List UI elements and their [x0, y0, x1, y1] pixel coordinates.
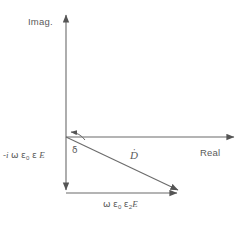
real-component-epsilon-two: ε: [124, 199, 129, 209]
real-component-omega: ω: [103, 199, 111, 209]
loss-angle-label: δ: [72, 146, 78, 155]
phasor-diagram: Imag. Real -i ω ε0 ε E ω ε0 ε2E ·D δ: [0, 0, 246, 226]
real-component-field: E: [132, 199, 138, 209]
overdot-accent: ·: [133, 146, 136, 155]
imaginary-axis-label: Imag.: [28, 17, 53, 27]
real-component-epsilon-zero-sub: 0: [118, 203, 121, 210]
phasor-diagram-canvas: [0, 0, 246, 226]
displacement-vector-label: ·D: [130, 150, 138, 161]
displacement-symbol: ·D: [130, 150, 138, 161]
imaginary-component-omega: ω: [11, 150, 19, 160]
imaginary-component-epsilon-zero-sub: 0: [26, 154, 29, 161]
real-component-epsilon-two-sub: 2: [129, 203, 132, 210]
imaginary-component-field: E: [39, 150, 45, 160]
loss-angle-arc: [71, 132, 85, 140]
displacement-vector-arrow: [66, 137, 178, 190]
real-axis-label: Real: [200, 148, 220, 158]
imaginary-component-label: -i ω ε0 ε E: [3, 151, 45, 160]
real-component-label: ω ε0 ε2E: [103, 200, 138, 209]
